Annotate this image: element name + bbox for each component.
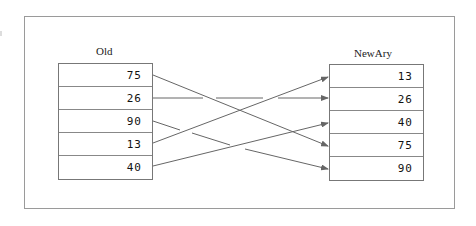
arrow-13: [153, 77, 328, 143]
mapping-arrows: [0, 0, 476, 226]
